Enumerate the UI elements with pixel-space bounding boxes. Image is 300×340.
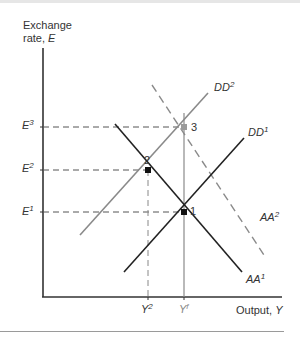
point-2 bbox=[145, 167, 151, 173]
point-3-label: 3 bbox=[191, 121, 197, 134]
aa2-curve bbox=[152, 85, 264, 255]
y-axis-variable: E bbox=[48, 32, 55, 44]
dd2-label: DD2 bbox=[214, 81, 234, 94]
y-axis-label-line2: rate, bbox=[23, 32, 48, 44]
point-1 bbox=[181, 209, 187, 215]
diagram-canvas bbox=[0, 0, 300, 340]
tick-label-e2: E2 bbox=[22, 162, 34, 175]
point-1-label: 1 bbox=[190, 205, 196, 218]
tick-label-y2: Y2 bbox=[141, 303, 153, 316]
dd1-label: DD1 bbox=[248, 126, 268, 139]
aa1-curve bbox=[115, 124, 242, 272]
x-axis-label: Output, Y bbox=[236, 304, 282, 317]
point-3 bbox=[181, 124, 187, 130]
tick-label-e3: E3 bbox=[22, 119, 34, 132]
point-2-label: 2 bbox=[144, 154, 150, 167]
y-axis-label-line1: Exchange bbox=[23, 19, 72, 31]
tick-label-e1: E1 bbox=[22, 205, 34, 218]
aa1-label: AA1 bbox=[246, 273, 265, 286]
aa2-label: AA2 bbox=[260, 211, 279, 224]
bottom-rule bbox=[0, 331, 284, 332]
y-axis-label: Exchange rate, E bbox=[23, 19, 72, 45]
tick-label-yf: Yf bbox=[179, 303, 189, 316]
